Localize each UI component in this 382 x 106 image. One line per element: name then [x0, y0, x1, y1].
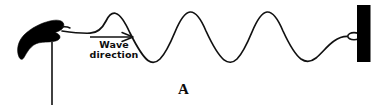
- wall-post: [357, 5, 371, 62]
- figure-drawing: [0, 0, 382, 106]
- figure-background: [0, 0, 382, 106]
- wave-direction-line2: direction: [88, 50, 140, 60]
- panel-letter: A: [178, 82, 189, 98]
- wave-direction-label: Wave direction: [88, 40, 140, 60]
- wave-on-rope-figure: Wave direction A: [0, 0, 382, 106]
